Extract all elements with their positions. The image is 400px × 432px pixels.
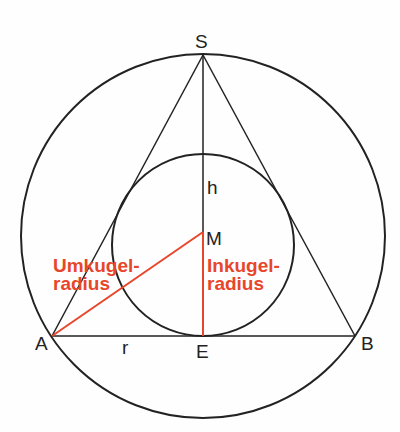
- point-A-label: A: [35, 333, 48, 354]
- umkugel-label-line2: radius: [53, 273, 110, 294]
- point-M-label: M: [206, 228, 222, 249]
- radius-r-label: r: [122, 337, 129, 358]
- point-B-label: B: [361, 333, 374, 354]
- point-S-label: S: [195, 31, 208, 52]
- inkugel-label-line2: radius: [207, 273, 264, 294]
- point-E-label: E: [196, 341, 209, 362]
- height-h-label: h: [207, 177, 218, 198]
- diagram-canvas: S h M A r E B Umkugel- radius Inkugel- r…: [0, 0, 400, 432]
- cone-sphere-diagram: S h M A r E B Umkugel- radius Inkugel- r…: [0, 0, 400, 432]
